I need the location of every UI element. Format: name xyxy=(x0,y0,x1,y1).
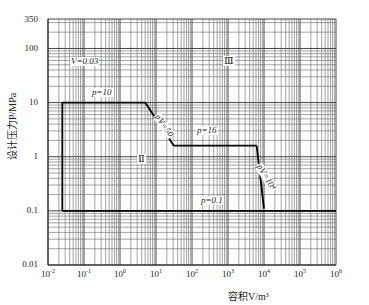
annotation-p-10: p=10 xyxy=(91,88,113,97)
y-tick-label: 10 xyxy=(0,98,38,107)
annotation-v-0.03: V=0.03 xyxy=(70,57,99,66)
annotation-p-16: p=16 xyxy=(196,126,218,135)
annotation-p-0.1: p=0.1 xyxy=(200,196,224,205)
y-tick-label: 1 xyxy=(0,152,38,161)
y-tick-label: 100 xyxy=(0,44,38,53)
y-tick-label: 0.1 xyxy=(0,206,38,215)
chart-plot-area xyxy=(0,0,369,305)
x-tick-label: 106 xyxy=(321,270,351,279)
x-axis-label: 容积V/m³ xyxy=(228,288,269,303)
x-tick-label: 10-1 xyxy=(69,270,99,279)
x-tick-label: 10-2 xyxy=(33,270,63,279)
x-tick-label: 104 xyxy=(249,270,279,279)
region-III-label: Ⅲ xyxy=(223,56,235,66)
x-tick-label: 100 xyxy=(105,270,135,279)
y-tick-label: 350 xyxy=(0,15,38,24)
x-tick-label: 103 xyxy=(213,270,243,279)
x-tick-label: 101 xyxy=(141,270,171,279)
y-tick-label: 0.01 xyxy=(0,260,38,269)
region-II-label: Ⅱ xyxy=(137,154,146,164)
x-tick-label: 105 xyxy=(285,270,315,279)
x-tick-label: 102 xyxy=(177,270,207,279)
